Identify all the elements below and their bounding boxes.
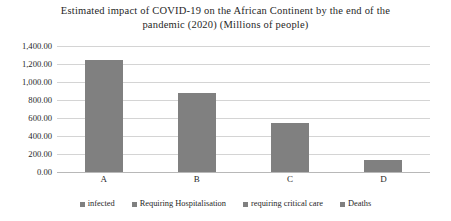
- bar-b[interactable]: [178, 93, 216, 172]
- chart-title-line-1: Estimated impact of COVID-19 on the Afri…: [40, 4, 411, 18]
- y-tick-label: 200.00: [0, 150, 52, 159]
- x-tick-label: C: [260, 174, 320, 185]
- legend-label: Requiring Hospitalisation: [140, 199, 226, 209]
- x-tick-label: B: [167, 174, 227, 185]
- legend-item[interactable]: Requiring Hospitalisation: [132, 199, 226, 209]
- legend-item[interactable]: infected: [80, 199, 115, 209]
- bar-d[interactable]: [364, 160, 402, 172]
- chart-title-line-2: pandemic (2020) (Millions of people): [40, 18, 411, 32]
- legend-item[interactable]: requiring critical care: [243, 199, 323, 209]
- chart-title: Estimated impact of COVID-19 on the Afri…: [40, 4, 411, 32]
- y-tick-label: 1,400.00: [0, 42, 52, 51]
- bar-c[interactable]: [271, 123, 309, 172]
- y-tick-label: 600.00: [0, 114, 52, 123]
- bar-a[interactable]: [85, 60, 123, 173]
- x-tick-label: D: [353, 174, 413, 185]
- legend-label: Deaths: [348, 199, 371, 209]
- gridline: [57, 172, 430, 173]
- y-tick-label: 400.00: [0, 132, 52, 141]
- gridline: [57, 46, 430, 47]
- legend-swatch-icon: [80, 202, 85, 207]
- legend-label: requiring critical care: [251, 199, 323, 209]
- legend-item[interactable]: Deaths: [340, 199, 371, 209]
- y-tick-label: 1,000.00: [0, 78, 52, 87]
- legend-label: infected: [88, 199, 115, 209]
- y-tick-label: 0.00: [0, 168, 52, 177]
- chart-legend: infectedRequiring Hospitalisationrequiri…: [0, 199, 451, 209]
- x-axis: ABCD: [57, 174, 430, 188]
- legend-swatch-icon: [132, 202, 137, 207]
- bar-chart-figure: Estimated impact of COVID-19 on the Afri…: [0, 0, 451, 221]
- y-axis: 1,400.001,200.001,000.00800.00600.00400.…: [0, 46, 52, 172]
- legend-swatch-icon: [243, 202, 248, 207]
- y-tick-label: 800.00: [0, 96, 52, 105]
- plot-area: [57, 46, 430, 172]
- y-tick-label: 1,200.00: [0, 60, 52, 69]
- legend-swatch-icon: [340, 202, 345, 207]
- x-tick-label: A: [74, 174, 134, 185]
